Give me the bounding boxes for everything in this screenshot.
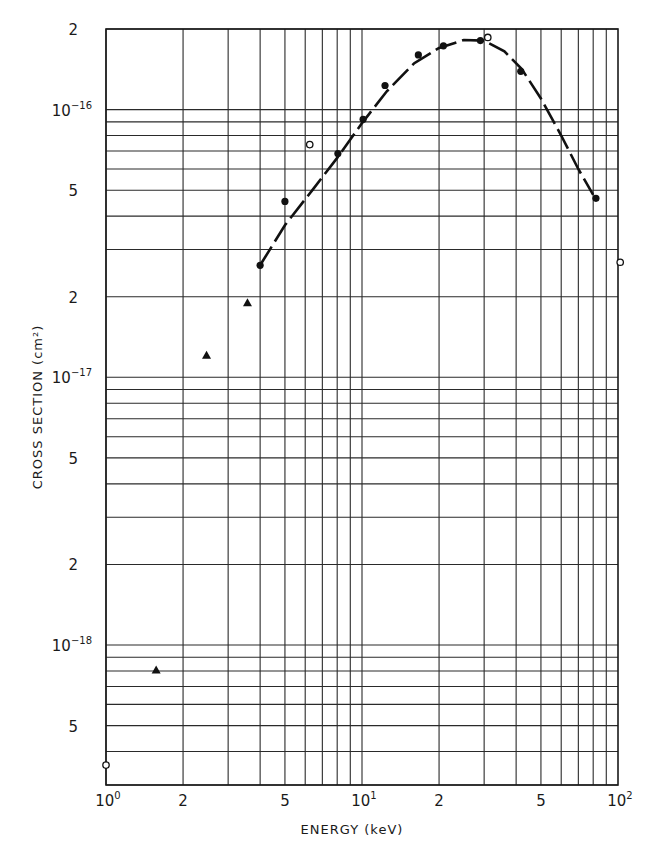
y-axis-title: CROSS SECTION (cm²)	[30, 325, 45, 490]
filled-circle-point	[281, 198, 288, 205]
y-tick-label: 10−17	[52, 367, 92, 387]
y-tick-label: 10−16	[52, 100, 92, 120]
filled-circle-point	[381, 82, 388, 89]
y-tick-label: 5	[68, 182, 78, 200]
grid-lines	[106, 29, 618, 785]
filled-circle-point	[592, 195, 599, 202]
y-tick-label: 2	[68, 21, 78, 39]
x-tick-label: 2	[178, 792, 188, 810]
y-tick-label: 2	[68, 556, 78, 574]
triangle-point	[152, 665, 161, 673]
x-tick-label: 101	[351, 790, 376, 810]
fitted-curve	[260, 40, 593, 265]
data-points	[103, 34, 624, 768]
open-circle-point	[617, 259, 623, 265]
filled-circle-point	[440, 42, 447, 49]
filled-circle-point	[360, 116, 367, 123]
open-circle-point	[307, 141, 313, 147]
filled-circle-point	[517, 68, 524, 75]
y-tick-label: 10−18	[52, 635, 92, 655]
cross-section-chart: 1002510125102 210−165210−175210−185 ENER…	[0, 0, 646, 846]
x-tick-label: 100	[95, 790, 120, 810]
filled-circle-point	[415, 51, 422, 58]
triangle-point	[243, 298, 252, 306]
filled-circle-point	[477, 37, 484, 44]
y-tick-label: 5	[68, 718, 78, 736]
x-tick-label: 5	[280, 792, 290, 810]
y-axis-tick-labels: 210−165210−175210−185	[52, 21, 92, 736]
open-circle-point	[485, 34, 491, 40]
x-tick-label: 102	[607, 790, 632, 810]
filled-circle-point	[257, 262, 264, 269]
y-tick-label: 5	[68, 450, 78, 468]
y-tick-label: 2	[68, 289, 78, 307]
open-circle-point	[103, 762, 109, 768]
x-tick-label: 5	[536, 792, 546, 810]
x-axis-title: ENERGY (keV)	[301, 822, 404, 837]
x-tick-label: 2	[434, 792, 444, 810]
x-axis-tick-labels: 1002510125102	[95, 790, 632, 810]
triangle-point	[202, 351, 211, 359]
filled-circle-point	[334, 150, 341, 157]
